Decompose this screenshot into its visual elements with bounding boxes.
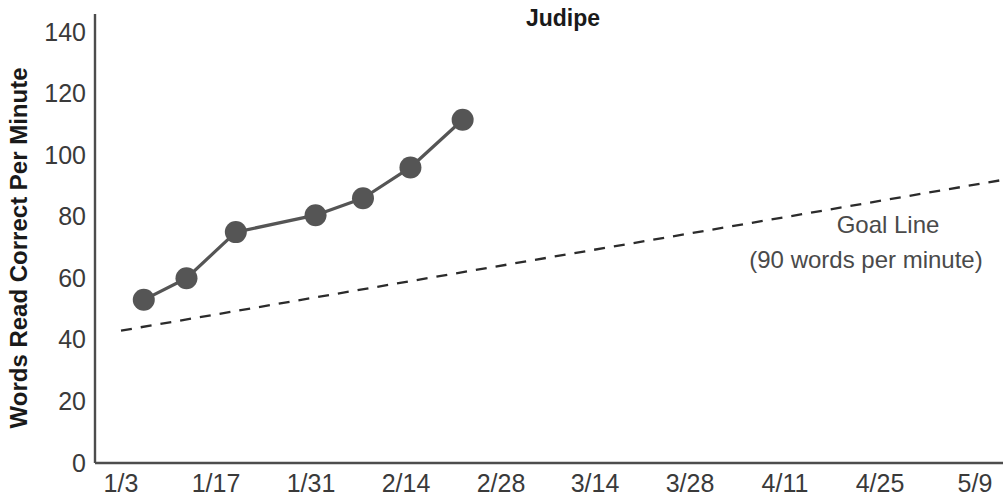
series-markers: [133, 109, 474, 311]
y-axis-title: Words Read Correct Per Minute: [5, 68, 32, 429]
x-tick-label-7: 4/11: [762, 469, 809, 497]
x-tick-label-3: 2/14: [382, 469, 431, 497]
x-tick-label-4: 2/28: [477, 469, 526, 497]
x-tick-label-1: 1/17: [192, 469, 241, 497]
x-tick-label-5: 3/14: [571, 469, 620, 497]
x-tick-label-0: 1/3: [104, 469, 139, 497]
line-chart: Judipe Words Read Correct Per Minute 0 2…: [0, 0, 1003, 502]
x-tick-label-9: 5/9: [958, 469, 993, 497]
data-point-3: [305, 204, 327, 226]
data-point-0: [133, 289, 155, 311]
y-tick-label-60: 60: [58, 264, 86, 292]
goal-line-label-line2: (90 words per minute): [749, 246, 982, 273]
y-tick-label-0: 0: [72, 449, 86, 477]
y-tick-label-40: 40: [58, 325, 86, 353]
y-tick-label-100: 100: [44, 141, 86, 169]
y-tick-label-120: 120: [44, 79, 86, 107]
chart-container: Judipe Words Read Correct Per Minute 0 2…: [0, 0, 1003, 502]
x-tick-label-8: 4/25: [856, 469, 905, 497]
y-tick-label-20: 20: [58, 387, 86, 415]
y-tick-label-140: 140: [44, 18, 86, 46]
y-tick-label-80: 80: [58, 202, 86, 230]
data-point-1: [175, 267, 197, 289]
chart-title: Judipe: [526, 5, 600, 31]
data-point-4: [352, 187, 374, 209]
x-tick-label-2: 1/31: [287, 469, 336, 497]
goal-line-label-line1: Goal Line: [837, 211, 940, 238]
data-point-5: [399, 156, 421, 178]
data-point-6: [452, 109, 474, 131]
data-point-2: [225, 221, 247, 243]
x-tick-label-6: 3/28: [666, 469, 715, 497]
